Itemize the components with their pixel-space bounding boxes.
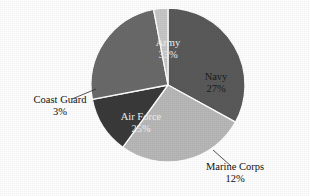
slice-name-label-navy: Navy bbox=[205, 71, 228, 82]
slice-percent-label-army: 33% bbox=[158, 49, 178, 60]
slice-percent-label-coast-guard: 3% bbox=[53, 106, 67, 117]
slice-name-label-marine-corps: Marine Corps bbox=[206, 161, 264, 172]
pie-chart-figure: Army33%Navy27%Marine Corps12%Air Force25… bbox=[0, 0, 310, 196]
slice-name-label-coast-guard: Coast Guard bbox=[34, 94, 88, 105]
slice-percent-label-navy: 27% bbox=[206, 83, 226, 94]
slice-percent-label-air-force: 25% bbox=[131, 123, 151, 134]
slice-name-label-army: Army bbox=[156, 37, 181, 48]
pie-chart-canvas: Army33%Navy27%Marine Corps12%Air Force25… bbox=[0, 0, 310, 196]
slice-percent-label-marine-corps: 12% bbox=[225, 173, 245, 184]
slice-name-label-air-force: Air Force bbox=[121, 111, 162, 122]
